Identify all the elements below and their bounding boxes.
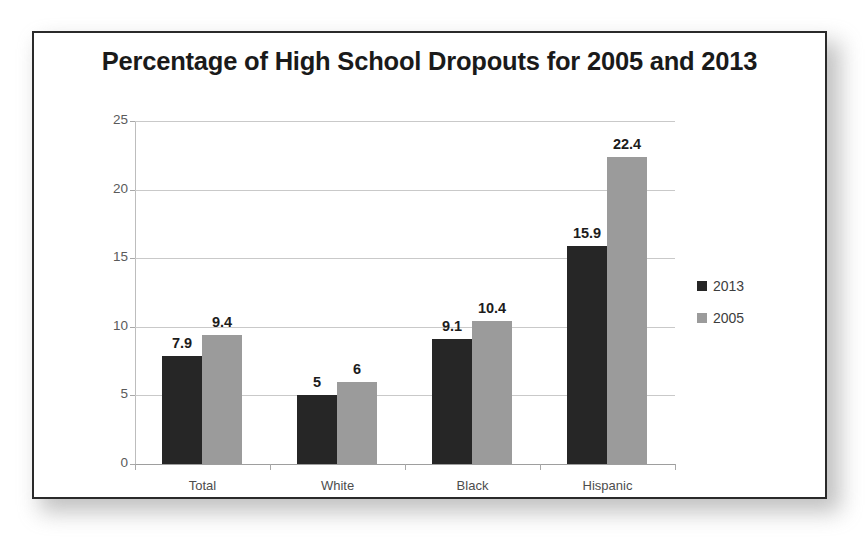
bar-2005-black[interactable]: [472, 321, 512, 464]
y-axis-tick: [130, 327, 135, 328]
legend-swatch-icon: [697, 281, 707, 291]
bar-group: 7.99.4: [162, 121, 243, 464]
legend-label: 2013: [713, 278, 744, 294]
bar-2013-hispanic[interactable]: [567, 246, 607, 464]
legend-label: 2005: [713, 310, 744, 326]
y-axis-labels: 0510152025: [92, 121, 128, 464]
bar-2013-total[interactable]: [162, 356, 202, 464]
y-axis-tick-label: 5: [94, 386, 128, 401]
bar-group: 56: [297, 121, 378, 464]
y-axis-tick-label: 15: [94, 249, 128, 264]
y-axis-tick-label: 20: [94, 181, 128, 196]
y-axis-tick: [130, 258, 135, 259]
x-axis-tick: [675, 464, 676, 470]
y-axis-line: [135, 121, 136, 464]
bar-value-label: 9.1: [425, 318, 479, 334]
legend-swatch-icon: [697, 313, 707, 323]
bar-value-label: 5: [290, 374, 344, 390]
bar-value-label: 6: [330, 361, 384, 377]
chart-figure: Percentage of High School Dropouts for 2…: [32, 31, 827, 499]
x-category-hispanic: Hispanic: [540, 478, 675, 493]
bar-2005-white[interactable]: [337, 382, 377, 464]
bar-value-label: 15.9: [560, 225, 614, 241]
legend-item-2013[interactable]: 2013: [697, 278, 807, 293]
x-axis-tick: [135, 464, 136, 470]
y-axis-tick: [130, 190, 135, 191]
x-category-black: Black: [405, 478, 540, 493]
bar-2005-hispanic[interactable]: [607, 157, 647, 464]
chart-title: Percentage of High School Dropouts for 2…: [34, 47, 825, 76]
bar-group: 15.922.4: [567, 121, 648, 464]
x-category-total: Total: [135, 478, 270, 493]
y-axis-tick: [130, 395, 135, 396]
chart-legend: 20132005: [697, 278, 807, 342]
x-axis-tick: [270, 464, 271, 470]
bar-value-label: 22.4: [600, 136, 654, 152]
y-axis-tick-label: 25: [94, 112, 128, 127]
x-category-white: White: [270, 478, 405, 493]
bar-value-label: 10.4: [465, 300, 519, 316]
bar-2005-total[interactable]: [202, 335, 242, 464]
x-axis-tick: [405, 464, 406, 470]
y-axis-tick: [130, 121, 135, 122]
bar-value-label: 9.4: [195, 314, 249, 330]
y-axis-tick-label: 0: [94, 455, 128, 470]
bar-group: 9.110.4: [432, 121, 513, 464]
page-background: Percentage of High School Dropouts for 2…: [0, 0, 865, 538]
bar-value-label: 7.9: [155, 335, 209, 351]
y-axis-tick-label: 10: [94, 318, 128, 333]
x-axis-tick: [540, 464, 541, 470]
bar-2013-black[interactable]: [432, 339, 472, 464]
legend-item-2005[interactable]: 2005: [697, 310, 807, 325]
plot-area: 7.99.4569.110.415.922.4 TotalWhiteBlackH…: [135, 121, 675, 464]
bar-2013-white[interactable]: [297, 395, 337, 464]
